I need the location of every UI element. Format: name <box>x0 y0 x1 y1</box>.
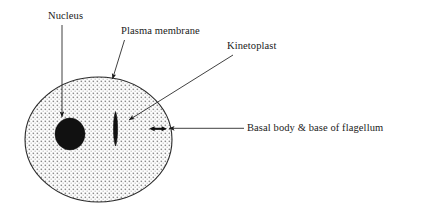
cell-diagram-svg <box>0 0 421 215</box>
figure-root: Nucleus Plasma membrane Kinetoplast Basa… <box>0 0 421 215</box>
nucleus-shape <box>55 118 85 150</box>
label-plasma-membrane: Plasma membrane <box>121 25 200 37</box>
cell-body-outline <box>25 77 172 202</box>
kinetoplast-leader-line <box>129 55 233 120</box>
label-nucleus: Nucleus <box>48 10 83 22</box>
plasma-membrane-leader-line <box>113 40 125 79</box>
label-basal-body: Basal body & base of flagellum <box>247 122 383 134</box>
kinetoplast-shape <box>113 112 117 147</box>
label-kinetoplast: Kinetoplast <box>227 40 277 52</box>
